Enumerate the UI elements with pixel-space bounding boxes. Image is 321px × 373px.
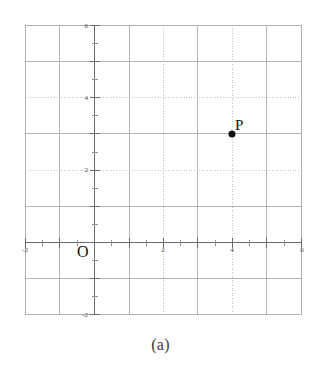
origin-label: O [77, 244, 89, 260]
ytick-label-neg2: -2 [82, 312, 88, 319]
xtick-label-2: 2 [161, 247, 165, 254]
xtick-label-4: 4 [230, 247, 234, 254]
ytick-label-6: 6 [85, 23, 89, 30]
ytick-label-2: 2 [85, 167, 89, 174]
grid-dotted-lines [25, 25, 302, 315]
figure-coordinate-plane: -2 2 4 6 6 4 2 -2 O P (a) [0, 0, 321, 373]
data-point-p-label: P [235, 118, 243, 133]
grid-svg [25, 25, 302, 315]
figure-caption: (a) [0, 336, 321, 354]
xtick-label-neg2: -2 [22, 247, 28, 254]
xtick-label-6: 6 [300, 247, 304, 254]
plot-area: -2 2 4 6 6 4 2 -2 O P [25, 25, 302, 315]
ytick-label-4: 4 [85, 95, 89, 102]
